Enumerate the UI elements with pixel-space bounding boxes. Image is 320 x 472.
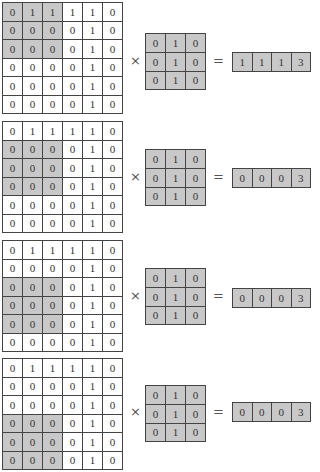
- matrix-cell: 0: [63, 259, 83, 278]
- highlighted-cell: 0: [3, 315, 23, 334]
- matrix-cell: 0: [63, 196, 83, 215]
- matrix-row: 000010: [3, 396, 123, 415]
- kernel-cell: 1: [166, 52, 186, 71]
- result-cell: 0: [233, 169, 253, 188]
- highlighted-cell: 0: [3, 3, 23, 22]
- kernel-matrix-step-4: 010010010: [145, 385, 206, 442]
- matrix-cell: 0: [63, 159, 83, 178]
- highlighted-cell: 0: [43, 315, 63, 334]
- matrix-cell: 1: [83, 259, 103, 278]
- kernel-row: 010: [146, 306, 206, 325]
- kernel-cell: 1: [166, 34, 186, 53]
- equals-operator: =: [213, 404, 224, 419]
- kernel-cell: 1: [166, 287, 186, 306]
- highlighted-cell: 0: [43, 278, 63, 297]
- highlighted-cell: 0: [23, 21, 43, 40]
- matrix-cell: 0: [43, 196, 63, 215]
- kernel-cell: 0: [146, 287, 166, 306]
- highlighted-cell: 0: [43, 433, 63, 452]
- matrix-cell: 0: [23, 196, 43, 215]
- kernel-row: 010: [146, 287, 206, 306]
- matrix-cell: 0: [103, 122, 123, 141]
- kernel-cell: 0: [186, 404, 206, 423]
- matrix-cell: 0: [103, 140, 123, 159]
- matrix-cell: 0: [3, 396, 23, 415]
- matrix-row: 000010: [3, 21, 123, 40]
- matrix-row: 000010: [3, 214, 123, 233]
- matrix-cell: 0: [63, 315, 83, 334]
- matrix-cell: 0: [63, 396, 83, 415]
- kernel-cell: 0: [146, 150, 166, 169]
- kernel-cell: 0: [146, 52, 166, 71]
- matrix-cell: 0: [3, 333, 23, 352]
- matrix-row: 000010: [3, 278, 123, 297]
- highlighted-cell: 0: [43, 140, 63, 159]
- matrix-cell: 0: [43, 333, 63, 352]
- matrix-cell: 0: [63, 40, 83, 59]
- matrix-cell: 0: [103, 359, 123, 378]
- highlighted-cell: 0: [3, 278, 23, 297]
- matrix-cell: 1: [83, 315, 103, 334]
- result-cell: 1: [233, 53, 253, 72]
- matrix-row: 000010: [3, 451, 123, 470]
- matrix-row: 000010: [3, 433, 123, 452]
- highlighted-cell: 0: [3, 159, 23, 178]
- kernel-cell: 0: [186, 168, 206, 187]
- matrix-cell: 0: [103, 3, 123, 22]
- kernel-row: 010: [146, 168, 206, 187]
- matrix-cell: 0: [63, 451, 83, 470]
- kernel-cell: 0: [146, 34, 166, 53]
- matrix-cell: 0: [103, 259, 123, 278]
- matrix-cell: 0: [103, 95, 123, 114]
- matrix-cell: 0: [103, 159, 123, 178]
- matrix-cell: 0: [103, 21, 123, 40]
- matrix-cell: 0: [3, 377, 23, 396]
- highlighted-cell: 0: [43, 414, 63, 433]
- matrix-cell: 0: [3, 214, 23, 233]
- matrix-cell: 0: [103, 177, 123, 196]
- result-cell: 0: [252, 289, 272, 308]
- kernel-row: 010: [146, 187, 206, 206]
- kernel-row: 010: [146, 71, 206, 90]
- matrix-cell: 0: [23, 214, 43, 233]
- matrix-cell: 0: [103, 433, 123, 452]
- matrix-cell: 0: [23, 396, 43, 415]
- matrix-cell: 0: [103, 40, 123, 59]
- matrix-cell: 1: [83, 396, 103, 415]
- matrix-cell: 0: [3, 259, 23, 278]
- kernel-cell: 1: [166, 423, 186, 442]
- highlighted-cell: 1: [23, 3, 43, 22]
- matrix-cell: 1: [83, 40, 103, 59]
- matrix-cell: 1: [23, 122, 43, 141]
- multiply-operator: ×: [130, 288, 141, 303]
- matrix-cell: 1: [83, 196, 103, 215]
- matrix-cell: 0: [43, 377, 63, 396]
- highlighted-cell: 0: [3, 433, 23, 452]
- result-row: 0003: [233, 403, 311, 422]
- matrix-cell: 1: [63, 3, 83, 22]
- equals-operator: =: [213, 169, 224, 184]
- highlighted-cell: 0: [23, 140, 43, 159]
- highlighted-cell: 0: [23, 315, 43, 334]
- matrix-cell: 1: [83, 414, 103, 433]
- matrix-cell: 0: [103, 278, 123, 297]
- matrix-cell: 0: [103, 241, 123, 260]
- matrix-cell: 1: [43, 241, 63, 260]
- highlighted-cell: 0: [23, 177, 43, 196]
- matrix-cell: 0: [63, 333, 83, 352]
- matrix-cell: 0: [103, 214, 123, 233]
- result-cell: 3: [291, 169, 311, 188]
- matrix-cell: 1: [83, 377, 103, 396]
- kernel-cell: 0: [146, 404, 166, 423]
- matrix-cell: 0: [63, 296, 83, 315]
- matrix-cell: 0: [43, 214, 63, 233]
- matrix-cell: 1: [83, 140, 103, 159]
- result-vector-step-1: 1113: [232, 52, 311, 72]
- highlighted-cell: 0: [3, 296, 23, 315]
- kernel-cell: 1: [166, 168, 186, 187]
- highlighted-cell: 0: [23, 451, 43, 470]
- result-row: 0003: [233, 169, 311, 188]
- multiply-operator: ×: [130, 53, 141, 68]
- matrix-cell: 0: [43, 259, 63, 278]
- highlighted-cell: 1: [43, 3, 63, 22]
